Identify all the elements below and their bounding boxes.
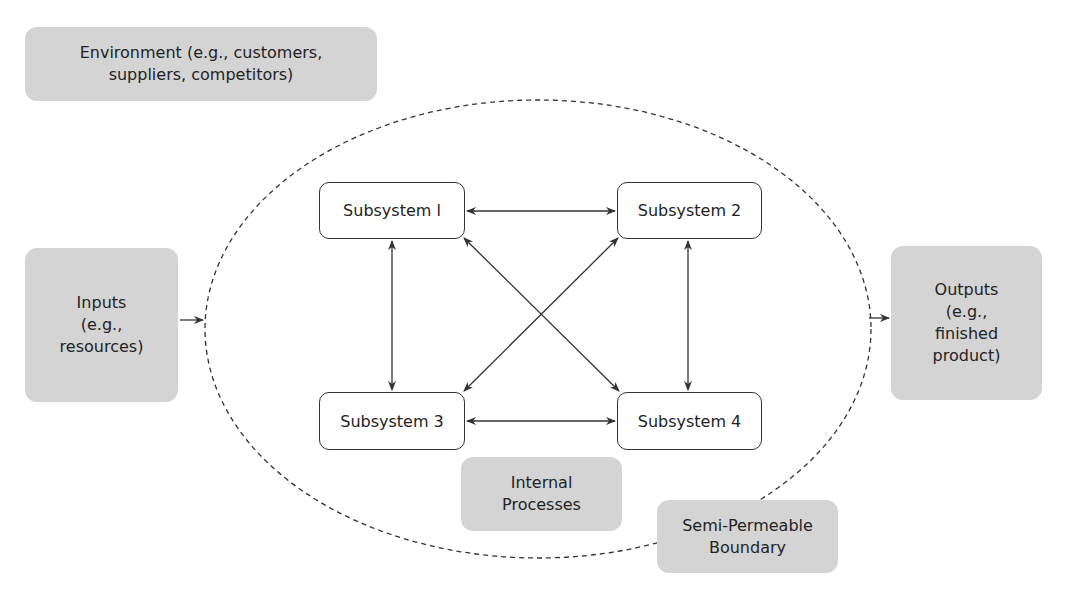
internal-processes-box: Internal Processes: [461, 457, 622, 531]
environment-label: Environment (e.g., customers, suppliers,…: [80, 42, 323, 86]
inputs-box: Inputs (e.g., resources): [25, 248, 178, 402]
subsystem-2-label: Subsystem 2: [638, 201, 742, 220]
internal-processes-label: Internal Processes: [502, 472, 581, 516]
subsystem-4-box: Subsystem 4: [617, 392, 762, 450]
inputs-label: Inputs (e.g., resources): [60, 292, 144, 358]
subsystem-3-label: Subsystem 3: [340, 412, 444, 431]
outputs-label: Outputs (e.g., finished product): [933, 279, 1001, 367]
subsystem-4-label: Subsystem 4: [638, 412, 742, 431]
subsystem-2-box: Subsystem 2: [617, 182, 762, 239]
environment-box: Environment (e.g., customers, suppliers,…: [25, 27, 377, 101]
boundary-label: Semi-Permeable Boundary: [682, 515, 813, 559]
subsystem-1-label: Subsystem l: [343, 201, 441, 220]
boundary-box: Semi-Permeable Boundary: [657, 500, 838, 573]
subsystem-1-box: Subsystem l: [319, 182, 465, 239]
subsystem-3-box: Subsystem 3: [319, 392, 465, 450]
outputs-box: Outputs (e.g., finished product): [891, 246, 1042, 400]
